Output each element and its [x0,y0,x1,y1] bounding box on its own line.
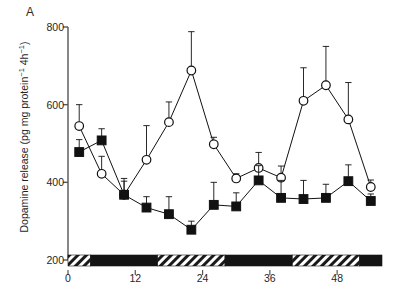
data-series [75,32,375,234]
light-dark-bar-segment-light [158,255,225,266]
x-axis-tick-label: 48 [331,272,343,284]
figure-panel-a: A Dopamine release (pg mg protein−1 4h−1… [0,0,403,304]
data-point-circle [97,169,106,178]
data-point-circle [209,140,218,149]
y-axis-label-sup2: −1 [17,45,26,54]
y-axis-label-main: Dopamine release (pg mg protein [18,77,30,233]
light-dark-bar [68,255,382,266]
y-axis-tick-label: 600 [46,99,64,111]
data-point-square [366,197,375,206]
x-axis-tick-label: 0 [65,272,71,284]
data-point-square [120,190,129,199]
data-point-circle [187,66,196,75]
data-point-square [344,177,353,186]
x-axis-tick-label: 12 [129,272,141,284]
y-axis-tick-label: 800 [46,21,64,33]
data-point-circle [366,183,375,192]
data-point-circle [142,156,151,165]
axes [63,27,337,275]
data-point-square [75,148,84,157]
light-dark-bar-segment-light [68,255,90,266]
light-dark-bar-segment-dark [90,255,157,266]
data-point-square [277,193,286,202]
data-point-square [165,210,174,219]
y-axis-label-mid: 4h [18,54,30,69]
data-point-circle [322,81,331,90]
data-point-square [232,202,241,211]
light-dark-bar-segment-light [292,255,359,266]
y-axis-tick-label: 400 [46,176,64,188]
data-point-square [187,225,196,234]
data-point-circle [299,96,308,105]
data-point-square [254,176,263,185]
data-point-square [209,200,218,209]
data-point-circle [75,122,84,131]
data-point-circle [165,118,174,127]
y-axis-tick-label: 200 [46,254,64,266]
data-point-square [322,193,331,202]
light-dark-bar-segment-dark [225,255,292,266]
x-axis-tick-labels: 012243648 [0,272,403,288]
series-line-filled-squares [79,140,371,229]
x-axis-tick-label: 36 [264,272,276,284]
data-point-square [299,195,308,204]
y-axis-label-sup1: −1 [17,68,26,77]
x-axis-tick-label: 24 [197,272,209,284]
light-dark-bar-segment-dark [360,255,382,266]
y-axis-label: Dopamine release (pg mg protein−1 4h−1) [16,12,32,262]
data-point-square [142,203,151,212]
data-point-circle [344,115,353,124]
data-point-square [97,136,106,145]
data-point-circle [232,174,241,183]
y-axis-label-end: ) [18,41,30,45]
y-axis-tick-labels: 200400600800 [36,0,64,304]
